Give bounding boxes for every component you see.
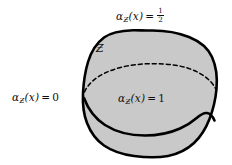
label-alpha-one: αƵ(x)=1: [118, 93, 165, 106]
equals-outside: =: [39, 91, 52, 103]
fraction-denominator: 2: [157, 16, 164, 23]
argument-boundary: (x): [129, 10, 144, 22]
value-inside: 1: [158, 92, 165, 104]
argument-outside: (x): [25, 91, 40, 103]
equals-boundary: =: [143, 10, 156, 22]
label-alpha-zero: αƵ(x)=0: [12, 92, 59, 105]
label-alpha-half: αƵ(x)=12: [116, 7, 164, 24]
fraction-numerator: 1: [157, 7, 164, 14]
fraction-one-half: 12: [157, 7, 164, 23]
argument-inside: (x): [131, 92, 146, 104]
region-diagram: [0, 0, 232, 165]
value-outside: 0: [52, 91, 59, 103]
region-name-label: Ƶ: [96, 43, 104, 54]
equals-inside: =: [145, 92, 158, 104]
